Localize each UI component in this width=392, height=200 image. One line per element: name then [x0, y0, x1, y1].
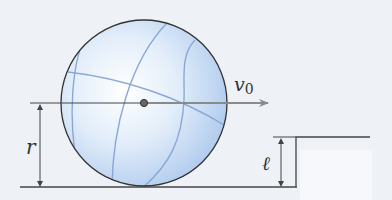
radius-label: r — [26, 135, 37, 159]
radius-arrow-bottom — [37, 181, 43, 187]
sphere-step-diagram: v0 r ℓ — [0, 0, 392, 200]
velocity-label: v0 — [234, 73, 254, 97]
step-height-arrow-top — [278, 138, 284, 144]
center-point — [140, 99, 147, 106]
step-block-face — [300, 150, 372, 200]
step-height-label: ℓ — [262, 152, 270, 174]
step-height-arrow-bottom — [278, 181, 284, 187]
radius-arrow-top — [37, 104, 43, 110]
